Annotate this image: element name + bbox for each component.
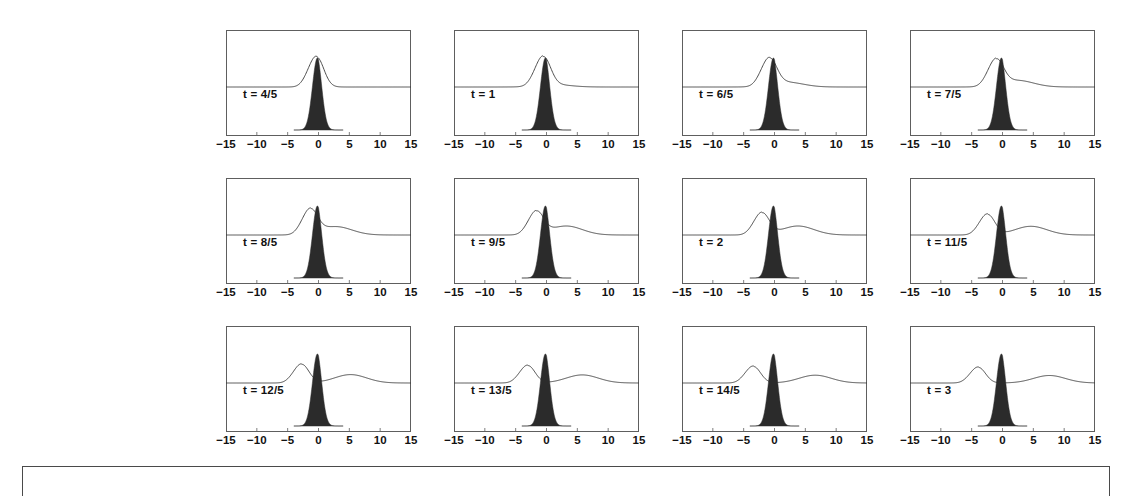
x-axis-tick-label: 10 — [374, 286, 387, 298]
x-axis-tick-label: 0 — [543, 286, 549, 298]
panel-plot — [910, 326, 1095, 432]
plot-panel: t = 12/5−15−10−5051015 — [226, 326, 411, 432]
lower-filled-peak — [522, 354, 571, 426]
x-axis-tick-labels: −15−10−5051015 — [903, 286, 1102, 302]
x-axis-tick-label: 15 — [1089, 138, 1102, 150]
x-axis-tick-label: −5 — [737, 434, 750, 446]
panel-time-label: t = 3 — [927, 384, 951, 396]
x-axis-tick-label: 10 — [1058, 434, 1071, 446]
x-axis-tick-label: 10 — [602, 434, 615, 446]
lower-filled-peak — [750, 206, 799, 278]
x-axis-tick-label: 10 — [830, 286, 843, 298]
x-axis-tick-label: 5 — [802, 434, 808, 446]
x-axis-tick-label: 10 — [830, 434, 843, 446]
x-axis-tick-label: −5 — [281, 138, 294, 150]
x-axis-tick-label: −10 — [247, 286, 267, 298]
x-axis-tick-label: 10 — [602, 286, 615, 298]
plot-panel: t = 4/5−15−10−5051015 — [226, 30, 411, 136]
x-axis-tick-label: −5 — [737, 138, 750, 150]
x-axis-tick-label: −10 — [931, 286, 951, 298]
x-axis-tick-label: −5 — [281, 434, 294, 446]
x-axis-tick-labels: −15−10−5051015 — [903, 434, 1102, 450]
panel-time-label: t = 12/5 — [243, 384, 284, 396]
panel-plot — [682, 178, 867, 284]
x-axis-tick-label: 15 — [405, 138, 418, 150]
x-axis-tick-label: 0 — [771, 138, 777, 150]
panel-time-label: t = 4/5 — [243, 88, 277, 100]
panel-time-label: t = 8/5 — [243, 236, 277, 248]
x-axis-tick-label: 10 — [374, 434, 387, 446]
x-axis-tick-label: 15 — [861, 138, 874, 150]
x-axis-tick-label: −15 — [444, 434, 464, 446]
x-axis-tick-label: 5 — [802, 286, 808, 298]
panel-time-label: t = 14/5 — [699, 384, 740, 396]
x-axis-tick-label: 0 — [315, 138, 321, 150]
panel-time-label: t = 6/5 — [699, 88, 733, 100]
lower-filled-peak — [522, 58, 571, 130]
x-axis-tick-label: −5 — [509, 138, 522, 150]
lower-filled-peak — [750, 354, 799, 426]
x-axis-tick-label: −15 — [900, 286, 920, 298]
x-axis-tick-label: −10 — [475, 434, 495, 446]
plot-panel: t = 13/5−15−10−5051015 — [454, 326, 639, 432]
x-axis-tick-label: 15 — [405, 286, 418, 298]
x-axis-tick-label: −10 — [703, 434, 723, 446]
x-axis-tick-label: 5 — [346, 286, 352, 298]
x-axis-tick-label: 5 — [346, 434, 352, 446]
empty-caption-frame — [22, 466, 1110, 496]
x-axis-tick-label: −15 — [900, 434, 920, 446]
panel-plot — [454, 178, 639, 284]
x-axis-tick-label: −15 — [672, 138, 692, 150]
x-axis-tick-label: −10 — [247, 138, 267, 150]
x-axis-tick-label: 10 — [374, 138, 387, 150]
x-axis-tick-label: 0 — [771, 434, 777, 446]
x-axis-tick-label: −5 — [737, 286, 750, 298]
x-axis-tick-label: −15 — [672, 286, 692, 298]
panel-grid: t = 4/5−15−10−5051015t = 1−15−10−5051015… — [226, 30, 1098, 450]
panel-plot — [226, 326, 411, 432]
x-axis-tick-label: 0 — [543, 434, 549, 446]
x-axis-tick-label: −10 — [931, 434, 951, 446]
x-axis-tick-label: −10 — [931, 138, 951, 150]
plot-panel: t = 2−15−10−5051015 — [682, 178, 867, 284]
x-axis-tick-label: −5 — [965, 434, 978, 446]
x-axis-tick-label: −5 — [509, 434, 522, 446]
x-axis-tick-labels: −15−10−5051015 — [675, 286, 874, 302]
plot-panel: t = 14/5−15−10−5051015 — [682, 326, 867, 432]
x-axis-tick-label: 15 — [633, 434, 646, 446]
panel-time-label: t = 11/5 — [927, 236, 967, 248]
x-axis-tick-label: 5 — [574, 286, 580, 298]
x-axis-tick-label: 5 — [346, 138, 352, 150]
plot-panel: t = 9/5−15−10−5051015 — [454, 178, 639, 284]
plot-panel: t = 7/5−15−10−5051015 — [910, 30, 1095, 136]
lower-filled-peak — [294, 58, 343, 130]
panel-plot — [454, 326, 639, 432]
x-axis-tick-label: 5 — [1030, 286, 1036, 298]
plot-panel: t = 11/5−15−10−5051015 — [910, 178, 1095, 284]
panel-time-label: t = 2 — [699, 236, 723, 248]
x-axis-tick-label: 0 — [771, 286, 777, 298]
lower-filled-peak — [978, 58, 1027, 130]
panel-plot — [226, 30, 411, 136]
x-axis-tick-label: 15 — [861, 434, 874, 446]
x-axis-tick-labels: −15−10−5051015 — [675, 434, 874, 450]
x-axis-tick-label: 5 — [574, 138, 580, 150]
x-axis-tick-label: 0 — [315, 434, 321, 446]
x-axis-tick-label: −15 — [216, 434, 236, 446]
x-axis-tick-label: −15 — [444, 138, 464, 150]
x-axis-tick-label: 0 — [315, 286, 321, 298]
x-axis-tick-label: 0 — [999, 286, 1005, 298]
x-axis-tick-label: −15 — [216, 286, 236, 298]
lower-filled-peak — [750, 58, 799, 130]
x-axis-tick-label: −15 — [672, 434, 692, 446]
plot-panel: t = 8/5−15−10−5051015 — [226, 178, 411, 284]
panel-time-label: t = 1 — [471, 88, 495, 100]
x-axis-tick-label: 15 — [1089, 286, 1102, 298]
x-axis-tick-label: 15 — [405, 434, 418, 446]
x-axis-tick-label: 15 — [633, 138, 646, 150]
panel-plot — [226, 178, 411, 284]
x-axis-tick-label: 10 — [1058, 138, 1071, 150]
lower-filled-peak — [978, 206, 1027, 278]
x-axis-tick-label: −5 — [509, 286, 522, 298]
